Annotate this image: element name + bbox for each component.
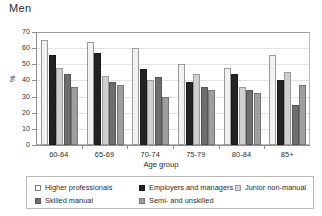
legend-swatch xyxy=(35,198,41,204)
y-tick-mark xyxy=(32,113,36,114)
bar xyxy=(224,68,231,145)
legend-item[interactable]: Employers and managers xyxy=(139,183,233,192)
bar-group xyxy=(220,32,266,145)
legend-label: Employers and managers xyxy=(149,183,233,192)
bar xyxy=(162,97,169,145)
bar xyxy=(254,93,261,145)
y-tick-mark xyxy=(32,80,36,81)
bar xyxy=(41,40,48,145)
bar-group xyxy=(37,32,83,145)
legend-swatch xyxy=(139,198,145,204)
x-tick-mark xyxy=(173,145,174,149)
bar xyxy=(239,87,246,145)
x-tick-label: 70-74 xyxy=(127,150,173,159)
legend-label: Junior non-manual xyxy=(245,183,306,192)
bar-group xyxy=(265,32,311,145)
y-tick-label: 20 xyxy=(8,109,30,116)
x-tick-mark xyxy=(82,145,83,149)
legend-item[interactable]: Skilled manual xyxy=(35,196,93,205)
y-tick-mark xyxy=(32,32,36,33)
x-tick-label: 80-84 xyxy=(219,150,265,159)
y-tick-label: 10 xyxy=(8,125,30,132)
bar xyxy=(193,74,200,145)
bar xyxy=(71,87,78,145)
y-tick-label: 60 xyxy=(8,44,30,51)
bar-group xyxy=(83,32,129,145)
bar xyxy=(178,64,185,145)
x-tick-mark xyxy=(264,145,265,149)
bar xyxy=(201,87,208,145)
chart-container: Men % 010203040506070 60-6465-6970-7475-… xyxy=(0,0,322,216)
legend-item[interactable]: Higher professionals xyxy=(35,183,112,192)
chart-title: Men xyxy=(9,2,32,14)
bar xyxy=(132,48,139,145)
legend-label: Higher professionals xyxy=(45,183,112,192)
bar xyxy=(292,105,299,145)
y-tick-label: 50 xyxy=(8,60,30,67)
bar xyxy=(64,74,71,145)
bar-series-layer xyxy=(37,32,309,145)
bar xyxy=(56,68,63,145)
bar xyxy=(277,80,284,145)
x-tick-label: 65-69 xyxy=(82,150,128,159)
bar xyxy=(299,85,306,145)
bar xyxy=(186,82,193,145)
y-tick-label: 0 xyxy=(8,141,30,148)
y-tick-label: 40 xyxy=(8,76,30,83)
legend-swatch xyxy=(235,185,241,191)
bar xyxy=(49,55,56,145)
bar xyxy=(117,85,124,145)
bar xyxy=(284,72,291,145)
x-tick-mark xyxy=(127,145,128,149)
bar xyxy=(140,69,147,145)
bar xyxy=(102,76,109,145)
bar xyxy=(94,53,101,145)
bar xyxy=(147,80,154,145)
legend-label: Semi- and unskilled xyxy=(149,196,214,205)
x-tick-label: 75-79 xyxy=(173,150,219,159)
y-tick-mark xyxy=(32,145,36,146)
y-tick-mark xyxy=(32,64,36,65)
bar xyxy=(109,82,116,145)
chart-legend: Higher professionalsEmployers and manage… xyxy=(26,176,314,209)
bar xyxy=(269,55,276,145)
y-tick-label: 30 xyxy=(8,93,30,100)
legend-swatch xyxy=(35,185,41,191)
y-tick-mark xyxy=(32,48,36,49)
legend-item[interactable]: Semi- and unskilled xyxy=(139,196,214,205)
y-tick-label: 70 xyxy=(8,28,30,35)
bar xyxy=(208,90,215,145)
x-tick-label: 85+ xyxy=(264,150,310,159)
bar xyxy=(246,90,253,145)
y-tick-mark xyxy=(32,129,36,130)
bar-group xyxy=(174,32,220,145)
y-tick-mark xyxy=(32,97,36,98)
bar xyxy=(231,74,238,145)
bar xyxy=(155,77,162,145)
legend-label: Skilled manual xyxy=(45,196,93,205)
x-tick-label: 60-64 xyxy=(36,150,82,159)
legend-swatch xyxy=(139,185,145,191)
legend-item[interactable]: Junior non-manual xyxy=(235,183,306,192)
x-axis-title: Age group xyxy=(0,160,322,169)
bar xyxy=(87,42,94,145)
bar-group xyxy=(128,32,174,145)
x-tick-mark xyxy=(219,145,220,149)
